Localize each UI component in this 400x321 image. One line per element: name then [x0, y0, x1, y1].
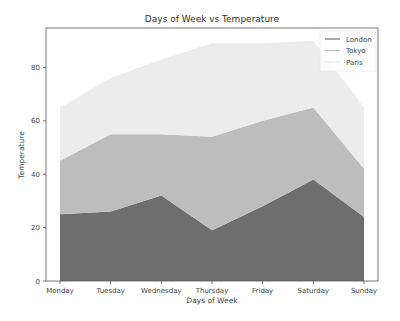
y-tick-label: 40 [31, 171, 40, 179]
x-axis-ticks: MondayTuesdayWednesdayThursdayFridaySatu… [46, 281, 377, 295]
chart-title: Days of Week vs Temperature [145, 14, 280, 24]
x-tick-label: Thursday [195, 287, 229, 295]
x-tick-label: Wednesday [141, 287, 182, 295]
x-tick-label: Tuesday [95, 287, 124, 295]
x-tick-label: Friday [252, 287, 273, 295]
plot-areas [60, 41, 364, 281]
x-tick-label: Saturday [298, 287, 330, 295]
y-tick-label: 0 [36, 278, 40, 286]
legend-label: Tokyo [345, 47, 366, 55]
legend-label: Paris [346, 59, 363, 67]
y-axis-ticks: 020406080 [31, 64, 46, 286]
y-tick-label: 20 [31, 224, 40, 232]
x-axis-label: Days of Week [186, 296, 238, 305]
stacked-area-chart: Days of Week vs Temperature 020406080 Mo… [0, 0, 400, 321]
y-tick-label: 80 [31, 64, 40, 72]
y-tick-label: 60 [31, 117, 40, 125]
x-tick-label: Sunday [351, 287, 377, 295]
y-axis-label: Temperature [17, 131, 26, 180]
legend-label: London [346, 36, 372, 44]
x-tick-label: Monday [46, 287, 74, 295]
legend: LondonTokyoParis [320, 31, 376, 71]
